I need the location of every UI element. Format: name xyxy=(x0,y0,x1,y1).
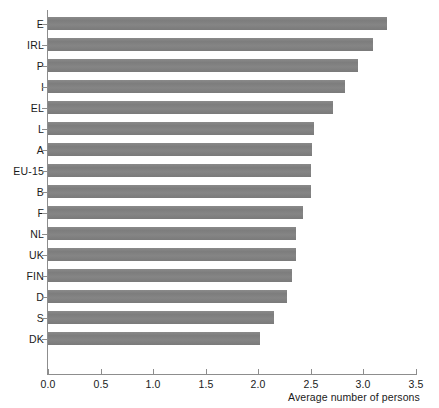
y-axis-tick xyxy=(42,234,47,235)
bar-chart: EIRLPIELLAEU-15BFNLUKFINDSDK 0.00.51.01.… xyxy=(0,0,439,408)
x-tick-label-2.0: 2.0 xyxy=(238,378,278,390)
y-axis-tick xyxy=(42,66,47,67)
x-axis-tick xyxy=(416,369,417,375)
y-axis-tick xyxy=(42,339,47,340)
y-axis-tick xyxy=(42,255,47,256)
y-axis-tick xyxy=(42,192,47,193)
bar-d xyxy=(48,290,287,303)
x-axis-tick xyxy=(48,369,49,375)
category-label-eu-15: EU-15 xyxy=(13,165,44,177)
y-axis-tick xyxy=(42,108,47,109)
y-axis-tick xyxy=(42,213,47,214)
bar-eu-15 xyxy=(48,164,311,177)
bar-uk xyxy=(48,248,296,261)
x-axis-tick xyxy=(206,369,207,375)
x-axis-tick xyxy=(101,369,102,375)
bar-fin xyxy=(48,269,292,282)
x-axis-tick xyxy=(258,369,259,375)
bar-a xyxy=(48,143,312,156)
x-tick-label-0.5: 0.5 xyxy=(81,378,121,390)
x-axis-tick xyxy=(363,369,364,375)
y-axis-tick xyxy=(42,276,47,277)
y-axis-tick xyxy=(42,297,47,298)
bar-e xyxy=(48,17,387,30)
y-axis-tick xyxy=(42,87,47,88)
y-axis-tick xyxy=(42,150,47,151)
x-tick-label-2.5: 2.5 xyxy=(291,378,331,390)
x-tick-label-1.0: 1.0 xyxy=(133,378,173,390)
x-tick-label-3.0: 3.0 xyxy=(343,378,383,390)
x-axis-line xyxy=(47,374,416,375)
x-axis-tick xyxy=(153,369,154,375)
x-axis-tick xyxy=(311,369,312,375)
bar-p xyxy=(48,59,358,72)
bar-dk xyxy=(48,332,260,345)
bar-f xyxy=(48,206,303,219)
bar-l xyxy=(48,122,314,135)
y-axis-tick xyxy=(42,171,47,172)
bar-b xyxy=(48,185,311,198)
y-axis-tick xyxy=(42,45,47,46)
x-tick-label-3.5: 3.5 xyxy=(396,378,436,390)
x-tick-label-1.5: 1.5 xyxy=(186,378,226,390)
bar-nl xyxy=(48,227,296,240)
bar-i xyxy=(48,80,345,93)
bar-irl xyxy=(48,38,373,51)
x-axis-title: Average number of persons xyxy=(288,391,420,403)
y-axis-tick xyxy=(42,24,47,25)
x-tick-label-0.0: 0.0 xyxy=(28,378,68,390)
bar-el xyxy=(48,101,333,114)
bar-s xyxy=(48,311,274,324)
plot-area: EIRLPIELLAEU-15BFNLUKFINDSDK 0.00.51.01.… xyxy=(0,0,439,408)
y-axis-tick xyxy=(42,129,47,130)
y-axis-tick xyxy=(42,318,47,319)
